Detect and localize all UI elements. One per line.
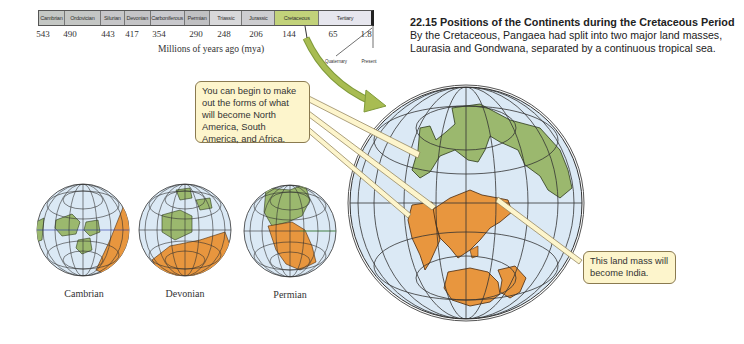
period-cambrian: Cambrian [39, 11, 65, 25]
permian-globe [244, 184, 336, 277]
cretaceous-pointer [305, 26, 307, 38]
tick-label: 354 [152, 29, 166, 39]
devonian-globe [139, 184, 232, 278]
tick-label: 248 [217, 29, 231, 39]
tick-label: 443 [101, 29, 115, 39]
period-jurassic: Jurassic [242, 11, 275, 25]
axis-label: Millions of years ago (mya) [158, 44, 264, 54]
period-tertiary: Tertiary [319, 11, 371, 25]
tick-label: 417 [125, 29, 139, 39]
period-triassic: Triassic [210, 11, 242, 25]
tick-label: 206 [249, 29, 263, 39]
period-ordovician: Ordovician [65, 11, 101, 25]
tick-label: 65 [329, 29, 338, 39]
period-devonian: Devonian [125, 11, 151, 25]
globe-label-devonian: Devonian [166, 288, 205, 299]
figure-description: By the Cretaceous, Pangaea had split int… [410, 29, 740, 55]
globe-label-permian: Permian [273, 289, 306, 300]
present-label: Present [361, 58, 376, 64]
figure-caption: 22.15 Positions of the Continents during… [410, 16, 740, 55]
quaternary-label: Quaternary [325, 58, 347, 64]
cretaceous-globe [348, 85, 584, 321]
continents-callout: You can begin to make out the forms of w… [195, 81, 310, 143]
period-cretaceous: Cretaceous [275, 11, 319, 25]
cambrian-globe [36, 184, 132, 276]
period-permian: Permian [185, 11, 211, 25]
india-callout: This land mass will become India. [583, 251, 676, 284]
tick-label: 1.8 [360, 29, 371, 39]
figure-title: 22.15 Positions of the Continents during… [410, 16, 740, 29]
geologic-timeline: CambrianOrdovicianSilurianDevonianCarbon… [38, 10, 374, 26]
tick-label: 290 [189, 29, 203, 39]
period-silurian: Silurian [101, 11, 125, 25]
globe-label-cambrian: Cambrian [64, 288, 103, 299]
tick-label: 144 [282, 29, 296, 39]
period-carboniferous: Carboniferous [151, 11, 185, 25]
tick-label: 490 [63, 29, 77, 39]
tick-label: 543 [36, 29, 50, 39]
